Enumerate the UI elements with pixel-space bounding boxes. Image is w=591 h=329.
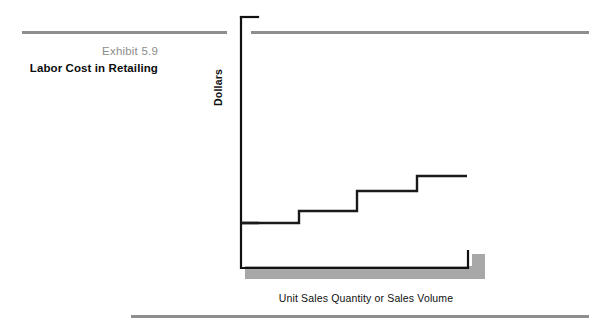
axis-shadow	[245, 254, 485, 279]
chart-plot-area	[200, 8, 500, 293]
chart-axes	[241, 17, 468, 268]
exhibit-number: Exhibit 5.9	[0, 44, 158, 58]
exhibit-figure: Exhibit 5.9 Labor Cost in Retailing	[0, 0, 591, 329]
x-axis-label: Unit Sales Quantity or Sales Volume	[241, 292, 491, 304]
step-chart-svg	[200, 8, 500, 293]
exhibit-title: Labor Cost in Retailing	[0, 61, 158, 75]
top-rule-left	[22, 31, 227, 34]
exhibit-caption: Exhibit 5.9 Labor Cost in Retailing	[0, 44, 158, 75]
y-axis-label: Dollars	[212, 36, 224, 106]
bottom-rule	[131, 315, 589, 318]
step-function-line	[241, 176, 467, 223]
